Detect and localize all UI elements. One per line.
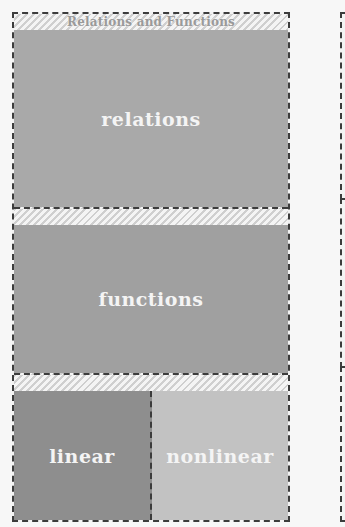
functions-block: functions [14,225,288,373]
hatched-separator [14,207,288,227]
adjacent-column-segment [340,12,345,200]
adjacent-column-segment [340,198,345,368]
hatched-separator [14,373,288,393]
adjacent-column-segment [340,366,345,522]
relations-label: relations [101,108,200,130]
nonlinear-label: nonlinear [166,445,273,467]
title-band: Relations and Functions [14,14,288,30]
diagram-title: Relations and Functions [67,14,235,30]
nonlinear-block: nonlinear [152,391,288,520]
functions-label: functions [98,288,203,310]
relations-block: relations [14,30,288,207]
linear-label: linear [49,445,115,467]
function-types-row: linear nonlinear [14,391,288,520]
linear-block: linear [14,391,152,520]
relations-functions-diagram: Relations and Functions relations functi… [12,12,290,522]
